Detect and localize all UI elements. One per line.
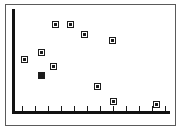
data-point (67, 21, 74, 28)
x-axis-tick (165, 106, 166, 111)
x-axis-tick (48, 106, 49, 111)
x-axis-tick (22, 106, 23, 111)
data-point (21, 56, 28, 63)
x-axis (12, 111, 170, 114)
x-axis-tick (113, 106, 114, 111)
data-point (38, 49, 45, 56)
data-point (109, 37, 116, 44)
data-point (153, 101, 160, 108)
x-axis-tick (139, 106, 140, 111)
y-axis (12, 9, 15, 114)
data-point (94, 83, 101, 90)
x-axis-tick (126, 106, 127, 111)
x-axis-tick (35, 106, 36, 111)
data-point (81, 31, 88, 38)
data-point (110, 98, 117, 105)
x-axis-tick (74, 106, 75, 111)
x-axis-tick (100, 106, 101, 111)
x-axis-tick (87, 106, 88, 111)
data-point (38, 72, 45, 79)
x-axis-tick (61, 106, 62, 111)
scatter-plot (0, 0, 183, 132)
data-point (52, 21, 59, 28)
data-point (50, 63, 57, 70)
